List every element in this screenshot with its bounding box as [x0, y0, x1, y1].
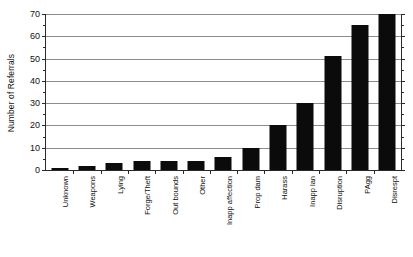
x-label-cell: PAgg — [347, 176, 374, 256]
x-tick-label: Other — [199, 176, 207, 195]
bar-cell — [264, 14, 291, 170]
bar-cell — [46, 14, 73, 170]
x-tick — [183, 170, 184, 174]
bar-cell — [128, 14, 155, 170]
bar-chart: Number of Referrals 010203040506070 Unkn… — [0, 0, 413, 257]
bar-cell — [346, 14, 373, 170]
y-tick-major-right — [401, 59, 405, 60]
y-tick-minor-right — [401, 47, 404, 48]
bar — [352, 25, 369, 170]
x-tick — [155, 170, 156, 174]
bar — [51, 168, 68, 170]
y-tick-major — [42, 170, 46, 171]
x-tick-label: Inapp lan — [309, 176, 317, 207]
bar — [297, 103, 314, 170]
y-tick-minor-right — [401, 114, 404, 115]
bar-cell — [73, 14, 100, 170]
y-tick-major-right — [401, 103, 405, 104]
x-tick-label: Disruption — [336, 176, 344, 210]
bar-cell — [155, 14, 182, 170]
x-tick — [319, 170, 320, 174]
y-tick-label: 20 — [30, 121, 40, 130]
bar-cell — [101, 14, 128, 170]
x-label-cell: Disrespt — [375, 176, 402, 256]
x-tick-label: Harass — [281, 176, 289, 200]
x-tick-label: Forge/Theft — [144, 176, 152, 215]
bar — [78, 166, 95, 170]
y-tick-major-right — [401, 125, 405, 126]
x-tick — [128, 170, 129, 174]
x-tick-label: Unknown — [62, 176, 70, 207]
bar — [106, 163, 123, 170]
y-axis-title-text: Number of Referrals — [6, 53, 16, 131]
plot-area: 010203040506070 — [45, 14, 402, 171]
x-label-cell: Inapp lan — [292, 176, 319, 256]
y-tick-label: 50 — [30, 54, 40, 63]
y-tick-label: 0 — [35, 166, 40, 175]
y-tick-label: 40 — [30, 76, 40, 85]
x-tick — [73, 170, 74, 174]
y-tick-minor-right — [401, 25, 404, 26]
x-label-cell: Other — [182, 176, 209, 256]
y-tick-label: 30 — [30, 99, 40, 108]
x-tick-label: Weapons — [89, 176, 97, 208]
bar-cell — [319, 14, 346, 170]
x-label-cell: Weapons — [72, 176, 99, 256]
x-tick — [292, 170, 293, 174]
y-tick-label: 60 — [30, 32, 40, 41]
bar — [215, 157, 232, 170]
x-tick-label: PAgg — [364, 176, 372, 194]
bar-cell — [374, 14, 401, 170]
bar — [160, 161, 177, 170]
y-axis-title: Number of Referrals — [0, 0, 22, 185]
x-label-cell: Unknown — [45, 176, 72, 256]
x-tick — [346, 170, 347, 174]
bar — [379, 14, 396, 170]
x-label-cell: Forge/Theft — [127, 176, 154, 256]
bar-cell — [292, 14, 319, 170]
x-tick — [374, 170, 375, 174]
y-tick-major-right — [401, 148, 405, 149]
y-tick-major-right — [401, 14, 405, 15]
bar — [324, 56, 341, 170]
bar — [242, 148, 259, 170]
x-axis-tick-labels: UnknownWeaponsLyingForge/TheftOut bounds… — [45, 176, 402, 256]
x-tick-label: Prop dam — [254, 176, 262, 209]
y-tick-label: 70 — [30, 10, 40, 19]
y-tick-minor-right — [401, 92, 404, 93]
x-label-cell: Out bounds — [155, 176, 182, 256]
bar — [188, 161, 205, 170]
x-tick-label: Inapp affection — [226, 176, 234, 225]
x-tick-label: Disrespt — [391, 176, 399, 204]
y-tick-major-right — [401, 36, 405, 37]
bars — [46, 14, 401, 170]
y-tick-minor-right — [401, 70, 404, 71]
x-label-cell: Inapp affection — [210, 176, 237, 256]
x-label-cell: Lying — [100, 176, 127, 256]
x-tick-label: Lying — [117, 176, 125, 194]
x-tick — [210, 170, 211, 174]
x-tick — [264, 170, 265, 174]
x-tick — [237, 170, 238, 174]
bar-cell — [237, 14, 264, 170]
x-label-cell: Harass — [265, 176, 292, 256]
x-label-cell: Disruption — [320, 176, 347, 256]
y-tick-major-right — [401, 170, 405, 171]
y-tick-major-right — [401, 81, 405, 82]
bar-cell — [183, 14, 210, 170]
x-tick — [101, 170, 102, 174]
bar-cell — [210, 14, 237, 170]
x-label-cell: Prop dam — [237, 176, 264, 256]
y-tick-label: 10 — [30, 143, 40, 152]
y-tick-minor-right — [401, 159, 404, 160]
x-tick-label: Out bounds — [172, 176, 180, 215]
bar — [270, 125, 287, 170]
y-tick-minor-right — [401, 137, 404, 138]
bar — [133, 161, 150, 170]
